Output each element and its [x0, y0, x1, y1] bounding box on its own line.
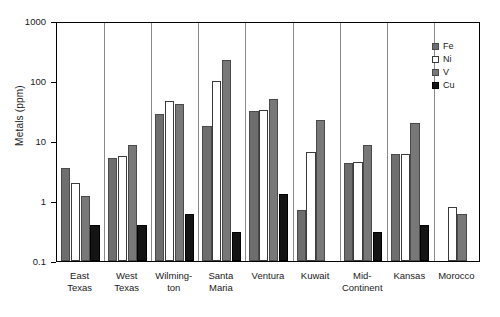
bar-east-texas-fe — [61, 168, 70, 261]
legend-label-ni: Ni — [443, 53, 452, 65]
bar-west-texas-v — [128, 145, 137, 261]
group-separator — [245, 23, 246, 261]
bar-morocco-v — [457, 214, 466, 261]
bar-wilmington-fe — [155, 114, 164, 261]
legend-label-cu: Cu — [443, 79, 455, 91]
bar-kansas-v — [410, 123, 419, 261]
bar-ventura-fe — [249, 111, 258, 261]
bar-west-texas-fe — [108, 158, 117, 261]
bar-kansas-fe — [391, 154, 400, 261]
legend-swatch-fe-icon — [432, 43, 439, 50]
bar-kuwait-v — [316, 120, 325, 261]
y-tick-label: 10 — [16, 137, 46, 147]
group-separator — [151, 23, 152, 261]
y-axis-title: Metals (ppm) — [14, 41, 25, 191]
bar-kuwait-ni — [306, 152, 315, 261]
bar-kansas-cu — [420, 225, 429, 261]
bar-wilmington-v — [175, 104, 184, 261]
y-tick-label: 100 — [16, 77, 46, 87]
legend-swatch-v-icon — [432, 69, 439, 76]
bar-west-texas-ni — [118, 156, 127, 261]
y-tick-label: 1 — [16, 197, 46, 207]
y-tick-label: 0.1 — [16, 257, 46, 267]
x-axis-label-morocco: Morocco — [425, 270, 488, 282]
bar-santa-maria-ni — [212, 81, 221, 261]
legend-swatch-cu-icon — [432, 82, 439, 89]
bar-kansas-ni — [401, 154, 410, 261]
bar-morocco-ni — [448, 207, 457, 261]
legend-label-v: V — [443, 66, 449, 78]
x-axis-label-line: Continent — [331, 282, 394, 294]
legend-item-fe: Fe — [432, 40, 455, 52]
x-axis-labels: EastTexasWestTexasWilming-tonSantaMariaV… — [56, 266, 480, 310]
bar-east-texas-ni — [71, 183, 80, 261]
bar-mid-continent-cu — [373, 232, 382, 261]
bar-west-texas-cu — [137, 225, 146, 261]
group-separator — [340, 23, 341, 261]
legend-item-cu: Cu — [432, 79, 455, 91]
bar-mid-continent-fe — [344, 163, 353, 261]
bar-east-texas-v — [81, 196, 90, 261]
bar-santa-maria-cu — [232, 232, 241, 261]
bar-east-texas-cu — [90, 225, 99, 261]
metals-bar-chart: Metals (ppm) 10001001010.1 EastTexasWest… — [0, 0, 500, 317]
bar-mid-continent-ni — [353, 162, 362, 261]
bar-kuwait-fe — [297, 210, 306, 261]
y-axis-title-wrapper: Metals (ppm) — [0, 0, 40, 260]
bar-santa-maria-fe — [202, 126, 211, 261]
bar-ventura-v — [269, 99, 278, 261]
legend-item-v: V — [432, 66, 455, 78]
y-tick-label: 1000 — [16, 17, 46, 27]
bar-santa-maria-v — [222, 60, 231, 261]
group-separator — [387, 23, 388, 261]
plot-area — [56, 22, 480, 262]
legend-label-fe: Fe — [443, 40, 454, 52]
legend-item-ni: Ni — [432, 53, 455, 65]
bar-wilmington-cu — [185, 214, 194, 261]
group-separator — [293, 23, 294, 261]
chart-legend: FeNiVCu — [432, 40, 455, 92]
x-axis-label-line: Maria — [189, 282, 252, 294]
legend-swatch-ni-icon — [432, 56, 439, 63]
bar-ventura-ni — [259, 110, 268, 261]
bar-ventura-cu — [279, 194, 288, 261]
x-axis-label-line: Morocco — [425, 270, 488, 282]
y-tick-mark — [51, 262, 56, 263]
bar-wilmington-ni — [165, 101, 174, 261]
group-separator — [104, 23, 105, 261]
bar-mid-continent-v — [363, 145, 372, 261]
group-separator — [198, 23, 199, 261]
